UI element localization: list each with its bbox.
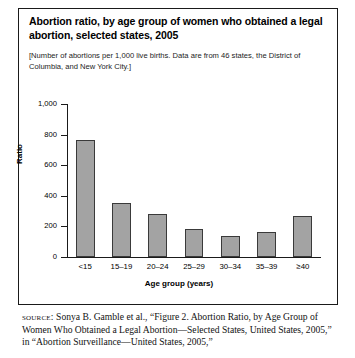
x-tick-label: <15	[67, 262, 103, 271]
y-tick-mark	[61, 104, 67, 105]
y-axis-line	[67, 104, 68, 258]
source-label: source:	[22, 311, 54, 322]
bar	[293, 216, 312, 257]
y-tick-mark	[61, 257, 67, 258]
source-note: source: Sonya B. Gamble et al., “Figure …	[22, 311, 334, 349]
bar	[76, 140, 95, 257]
y-tick-label: 800	[44, 131, 57, 139]
bar-chart-plot: Ratio 02004006008001,000 <1515–1920–2425…	[19, 9, 339, 306]
bar	[148, 214, 167, 257]
x-tick-label: 15–19	[103, 262, 139, 271]
y-tick-label: 1,000	[38, 100, 57, 108]
bar	[257, 232, 276, 257]
x-tick-label: 35–39	[248, 262, 284, 271]
figure-container: Abortion ratio, by age group of women wh…	[18, 8, 338, 305]
y-tick-mark	[61, 226, 67, 227]
x-tick-label: ≥40	[285, 262, 321, 271]
bar	[221, 236, 240, 257]
bar	[185, 229, 204, 257]
y-tick-label: 0	[53, 253, 57, 261]
y-tick-label: 400	[44, 192, 57, 200]
x-axis-line	[67, 257, 321, 258]
y-tick-label: 200	[44, 222, 57, 230]
y-tick-label: 600	[44, 161, 57, 169]
y-axis-title: Ratio	[15, 144, 24, 164]
y-tick-mark	[61, 135, 67, 136]
bar	[112, 203, 131, 257]
source-text: Sonya B. Gamble et al., “Figure 2. Abort…	[22, 311, 332, 347]
x-tick-label: 30–34	[212, 262, 248, 271]
x-tick-label: 25–29	[176, 262, 212, 271]
y-tick-mark	[61, 196, 67, 197]
y-tick-mark	[61, 165, 67, 166]
x-axis-title: Age group (years)	[19, 279, 339, 288]
x-tick-label: 20–24	[140, 262, 176, 271]
